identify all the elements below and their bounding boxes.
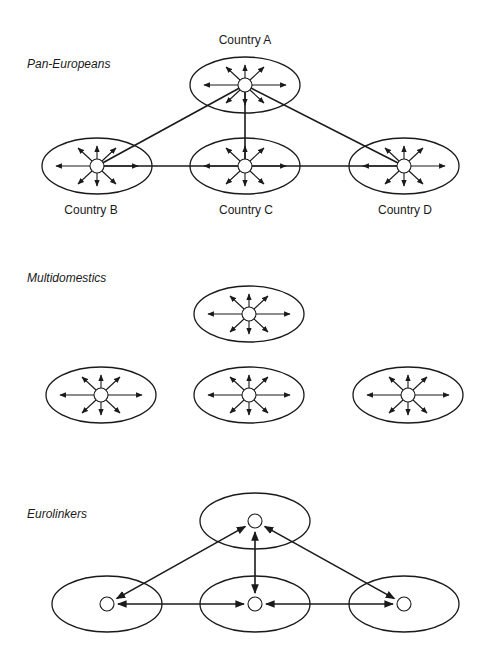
section-title: Eurolinkers (27, 507, 87, 521)
headquarters-node (397, 159, 411, 173)
headquarters-node (401, 388, 415, 402)
arrow-icon (385, 171, 399, 184)
country-unit: Country C (190, 138, 300, 217)
headquarters-node (238, 159, 252, 173)
arrow-icon (82, 400, 96, 413)
link-double-arrow (265, 526, 395, 598)
arrow-icon (409, 171, 423, 184)
section-title: Multidomestics (27, 271, 106, 285)
country-unit (46, 367, 156, 423)
country-label: Country B (64, 203, 117, 217)
country-unit (194, 367, 304, 423)
country-unit (353, 367, 463, 423)
link-double-arrow (117, 526, 246, 598)
country-label: Country C (219, 203, 273, 217)
arrow-icon (106, 400, 120, 413)
link-line (245, 85, 404, 166)
organization-structure-diagram: Pan-EuropeansCountry ACountry BCountry C… (0, 0, 480, 663)
arrow-icon (230, 296, 244, 309)
arrow-icon (389, 400, 403, 413)
country-unit: Country A (190, 33, 300, 113)
arrow-icon (230, 377, 244, 390)
arrow-icon (78, 148, 92, 161)
arrow-icon (250, 148, 264, 161)
country-label: Country A (219, 33, 272, 47)
link-line (97, 85, 245, 166)
arrow-icon (230, 400, 244, 413)
arrow-icon (226, 67, 240, 80)
arrow-icon (254, 319, 268, 332)
section-title: Pan-Europeans (27, 57, 110, 71)
headquarters-node (242, 388, 256, 402)
headquarters-node (242, 307, 256, 321)
arrow-icon (254, 377, 268, 390)
arrow-icon (226, 171, 240, 184)
arrow-icon (82, 377, 96, 390)
arrow-icon (389, 377, 403, 390)
headquarters-node (248, 597, 262, 611)
headquarters-node (94, 388, 108, 402)
arrow-icon (409, 148, 423, 161)
headquarters-node (90, 159, 104, 173)
arrow-icon (226, 148, 240, 161)
arrow-icon (78, 171, 92, 184)
headquarters-node (100, 597, 114, 611)
country-unit: Country B (42, 138, 152, 217)
country-label: Country D (378, 203, 432, 217)
arrow-icon (413, 400, 427, 413)
section-eurolinkers: Eurolinkers (27, 493, 459, 632)
headquarters-node (248, 514, 262, 528)
section-pan-europeans: Pan-EuropeansCountry ACountry BCountry C… (27, 33, 459, 217)
headquarters-node (238, 78, 252, 92)
arrow-icon (106, 377, 120, 390)
arrow-icon (230, 319, 244, 332)
country-unit: Country D (349, 138, 459, 217)
arrow-icon (254, 296, 268, 309)
arrow-icon (254, 400, 268, 413)
arrow-icon (250, 67, 264, 80)
arrow-icon (102, 171, 116, 184)
arrow-icon (413, 377, 427, 390)
section-multidomestics: Multidomestics (27, 271, 463, 423)
headquarters-node (397, 597, 411, 611)
arrow-icon (250, 171, 264, 184)
country-unit (194, 286, 304, 342)
